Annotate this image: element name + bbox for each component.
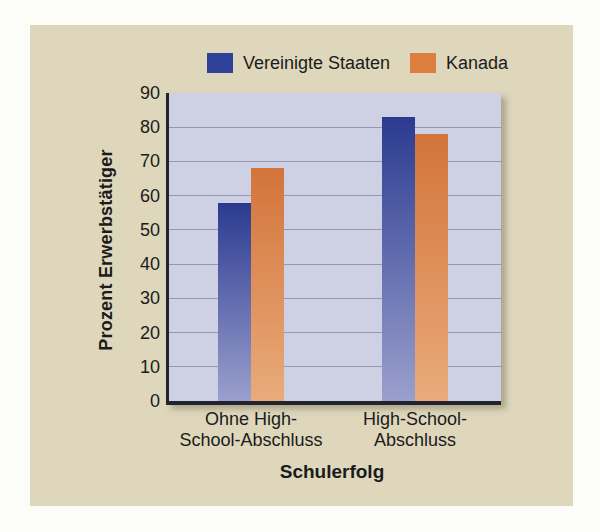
y-tick-label-0: 0 xyxy=(116,391,160,411)
y-tick-label-40: 40 xyxy=(116,254,160,274)
gridline-80 xyxy=(169,127,501,128)
y-tick-label-50: 50 xyxy=(116,220,160,240)
category-label-1: High-School-Abschluss xyxy=(363,409,467,451)
y-tick-label-60: 60 xyxy=(116,186,160,206)
legend-swatch-ca xyxy=(410,53,436,73)
bar-kanada-1 xyxy=(415,134,448,401)
gridline-70 xyxy=(169,161,501,162)
figure-root: Vereinigte Staaten Kanada Prozent Erwerb… xyxy=(0,0,600,532)
y-tick-label-20: 20 xyxy=(116,323,160,343)
legend-item-kanada: Kanada xyxy=(410,52,508,74)
legend-swatch-us xyxy=(207,53,233,73)
bar-vereinigte-staaten-0 xyxy=(218,203,251,401)
legend-item-vereinigte-staaten: Vereinigte Staaten xyxy=(207,52,390,74)
plot-area xyxy=(166,93,501,405)
y-tick-label-70: 70 xyxy=(116,151,160,171)
y-tick-label-80: 80 xyxy=(116,117,160,137)
bar-vereinigte-staaten-1 xyxy=(382,117,415,401)
legend-label-ca: Kanada xyxy=(446,52,508,74)
y-tick-label-90: 90 xyxy=(116,83,160,103)
bar-kanada-0 xyxy=(251,168,284,401)
legend-label-us: Vereinigte Staaten xyxy=(243,52,390,74)
y-tick-label-10: 10 xyxy=(116,357,160,377)
y-tick-label-30: 30 xyxy=(116,288,160,308)
y-axis-title: Prozent Erwerbstätiger xyxy=(96,149,117,350)
gridline-60 xyxy=(169,195,501,196)
category-label-0: Ohne High-School-Abschluss xyxy=(179,409,322,451)
x-axis-title: Schulerfolg xyxy=(280,461,385,483)
